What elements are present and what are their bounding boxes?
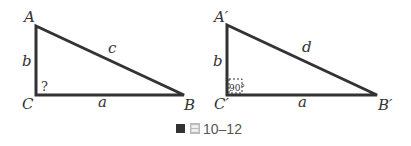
- triangle-abc-shape: [36, 26, 184, 95]
- angle-c-unknown-label: ?: [41, 79, 48, 94]
- vertex-a-label: A: [22, 8, 35, 26]
- caption-square-icon: [176, 124, 185, 133]
- vertex-c-label: C: [22, 95, 34, 113]
- side-a-label: a: [98, 93, 107, 111]
- caption: 10–12: [176, 121, 242, 137]
- side-d-label: d: [302, 38, 312, 56]
- figure-number: 10–12: [203, 121, 242, 137]
- triangle-abc: A C B b c a ?: [22, 8, 195, 114]
- vertex-b-prime-label: B′: [377, 96, 393, 114]
- triangle-prime-shape: [227, 25, 377, 95]
- triangle-a-prime-b-prime-c-prime: A′ C′ B′ b d a 90°: [212, 8, 393, 114]
- side-c-label: c: [108, 39, 117, 57]
- figure: A C B b c a ? A′ C′ B′ b d a 90° 10–12: [0, 0, 411, 146]
- side-b-prime-label: b: [213, 52, 223, 70]
- side-b-label: b: [22, 52, 32, 70]
- vertex-a-prime-label: A′: [212, 8, 229, 26]
- side-a-prime-label: a: [298, 93, 307, 111]
- vertex-c-prime-label: C′: [214, 95, 229, 113]
- vertex-b-label: B: [183, 96, 195, 114]
- right-angle-label: 90°: [229, 83, 245, 93]
- figure-icon: [190, 123, 200, 134]
